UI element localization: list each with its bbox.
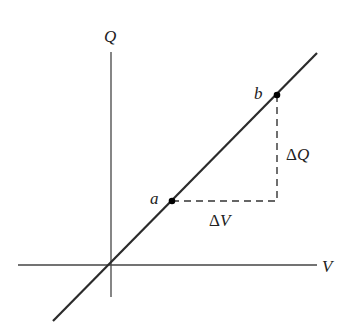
point-b: [274, 92, 281, 99]
point-b-label: b: [254, 84, 263, 103]
point-a-label: a: [150, 189, 159, 208]
delta-v-label: ΔV: [209, 211, 233, 230]
q-v-diagram: Q V a b ΔQ ΔV: [0, 0, 360, 330]
point-a: [169, 198, 176, 205]
q-axis-label: Q: [104, 27, 116, 46]
delta-q-label: ΔQ: [286, 145, 309, 164]
v-axis-label: V: [322, 257, 335, 276]
